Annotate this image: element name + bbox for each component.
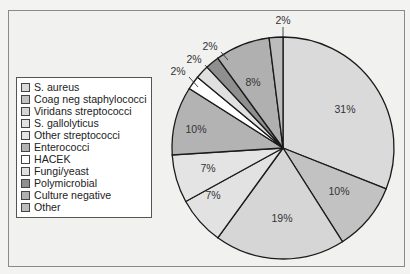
legend-label: S. aureus [34, 81, 79, 93]
slice-label: 10% [185, 123, 206, 135]
slice-label: 2% [186, 53, 201, 65]
legend-item: S. gallolyticus [21, 117, 151, 129]
legend-item: Viridans streptococci [21, 105, 151, 117]
legend-swatch [21, 131, 30, 140]
slice-label: 2% [170, 65, 185, 77]
legend-swatch [21, 119, 30, 128]
legend-item: Coag neg staphylococci [21, 93, 151, 105]
legend-swatch [21, 167, 30, 176]
slice-label: 19% [271, 212, 292, 224]
legend-label: Enterococci [34, 141, 89, 153]
legend-label: Other [34, 201, 61, 213]
slice-label: 7% [205, 189, 220, 201]
legend-item: Other [21, 201, 151, 213]
legend-label: Fungi/yeast [34, 165, 89, 177]
legend-item: HACEK [21, 153, 151, 165]
legend-swatch [21, 179, 30, 188]
legend: S. aureus Coag neg staphylococci Viridan… [16, 77, 152, 218]
slice-label: 2% [275, 14, 290, 26]
slice-label: 8% [245, 76, 260, 88]
legend-swatch [21, 143, 30, 152]
legend-label: Coag neg staphylococci [34, 93, 146, 105]
legend-swatch [21, 107, 30, 116]
legend-swatch [21, 95, 30, 104]
legend-swatch [21, 191, 30, 200]
slice-label: 31% [334, 103, 355, 115]
slice-label: 7% [200, 162, 215, 174]
legend-label: S. gallolyticus [34, 117, 99, 129]
legend-label: HACEK [34, 153, 71, 165]
legend-label: Other streptococci [34, 129, 120, 141]
legend-item: Other streptococci [21, 129, 151, 141]
legend-item: Polymicrobial [21, 177, 151, 189]
legend-swatch [21, 203, 30, 212]
legend-item: S. aureus [21, 81, 151, 93]
legend-item: Enterococci [21, 141, 151, 153]
legend-swatch [21, 83, 30, 92]
slice-label: 2% [202, 40, 217, 52]
slice-label: 10% [328, 185, 349, 197]
legend-item: Culture negative [21, 189, 151, 201]
legend-item: Fungi/yeast [21, 165, 151, 177]
legend-label: Polymicrobial [34, 177, 97, 189]
legend-swatch [21, 155, 30, 164]
legend-label: Viridans streptococci [34, 105, 132, 117]
legend-label: Culture negative [34, 189, 111, 201]
